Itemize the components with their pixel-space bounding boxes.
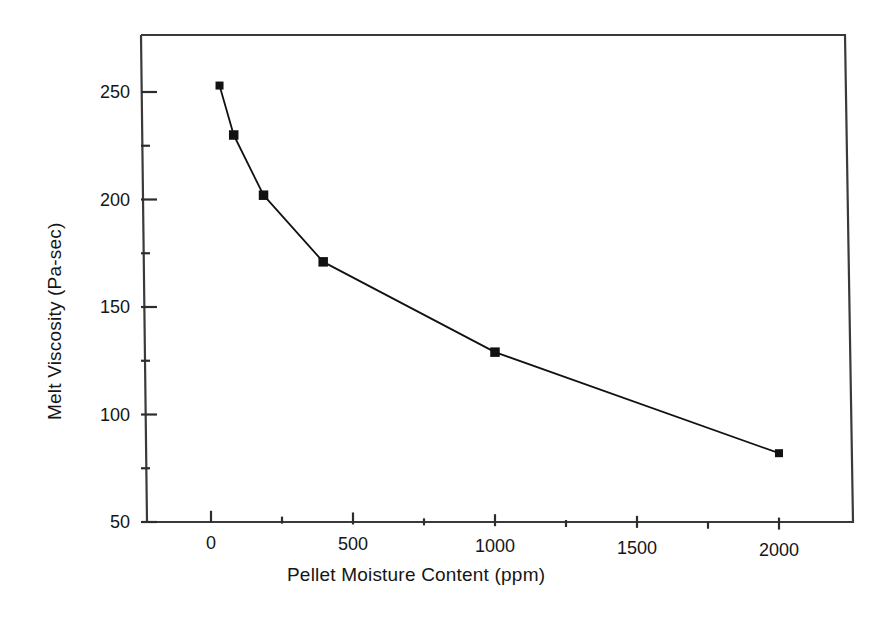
data-point-marker: [259, 190, 269, 200]
series-line: [220, 86, 779, 454]
y-axis-tick-label: 50: [62, 512, 130, 533]
x-axis-ticks: [211, 511, 779, 530]
plot-frame: [141, 35, 853, 522]
x-axis-tick-label: 0: [206, 533, 216, 554]
x-axis-tick-label: 1000: [475, 536, 515, 557]
line-chart-plot: [0, 0, 883, 624]
data-point-marker: [229, 130, 239, 140]
data-point-marker: [216, 82, 224, 90]
y-axis-title: Melt Viscosity (Pa-sec): [44, 223, 66, 420]
y-axis-tick-label: 250: [62, 82, 130, 103]
y-axis-tick-label: 100: [62, 404, 130, 425]
x-axis-tick-label: 2000: [759, 540, 799, 561]
x-axis-title: Pellet Moisture Content (ppm): [287, 564, 545, 586]
x-axis-tick-label: 1500: [617, 538, 657, 559]
data-point-marker: [490, 347, 500, 357]
data-point-marker: [775, 449, 783, 457]
x-axis-tick-label: 500: [338, 534, 368, 555]
chart-figure: 50100150200250 0500100015002000 Melt Vis…: [0, 0, 883, 624]
y-axis-tick-label: 200: [62, 189, 130, 210]
plot-frame-border: [141, 35, 853, 522]
y-axis-tick-label: 150: [62, 297, 130, 318]
data-series-group: [216, 82, 783, 458]
data-point-marker: [318, 257, 328, 267]
